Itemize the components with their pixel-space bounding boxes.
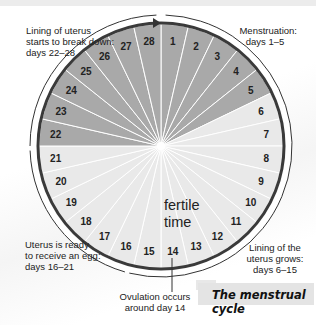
annotation-text: days 6–15	[240, 264, 310, 275]
annotation-text: Uterus is ready	[25, 239, 101, 250]
fertile-time-label: fertile time	[164, 197, 199, 231]
day-number: 2	[193, 41, 199, 52]
annotation-text: Menstruation:	[233, 25, 297, 36]
annotation-ovulation: Ovulation occurs around day 14	[110, 291, 200, 313]
diagram-title: The menstrual cycle	[212, 288, 316, 316]
annotation-text: around day 14	[110, 302, 200, 313]
day-number: 23	[55, 106, 67, 117]
day-number: 17	[99, 231, 111, 242]
day-number: 14	[167, 246, 179, 257]
day-number: 25	[80, 66, 92, 77]
annotation-text: Lining of uterus	[26, 25, 114, 36]
day-number: 20	[55, 176, 67, 187]
annotation-text: Lining of the	[240, 242, 310, 253]
day-number: 28	[144, 36, 156, 47]
annotation-breakdown: Lining of uterus starts to break down: d…	[26, 25, 114, 58]
day-number: 5	[248, 85, 254, 96]
annotation-text: to receive an egg:	[25, 250, 101, 261]
day-number: 12	[212, 231, 224, 242]
day-number: 4	[233, 66, 239, 77]
day-number: 13	[190, 241, 202, 252]
day-number: 15	[144, 246, 156, 257]
day-number: 16	[120, 241, 132, 252]
annotation-menstruation: Menstruation: days 1–5	[233, 25, 297, 47]
day-number: 3	[215, 51, 221, 62]
day-number: 8	[264, 153, 270, 164]
day-number: 6	[258, 106, 264, 117]
day-number: 10	[245, 197, 257, 208]
annotation-text: days 16–21	[25, 261, 101, 272]
time-text: time	[164, 214, 199, 231]
annotation-ready: Uterus is ready to receive an egg: days …	[25, 239, 101, 272]
annotation-grows: Lining of the uterus grows: days 6–15	[240, 242, 310, 275]
day-number: 19	[66, 197, 78, 208]
day-number: 21	[50, 153, 62, 164]
fertile-text: fertile	[164, 197, 199, 214]
day-number: 27	[120, 41, 132, 52]
annotation-text: days 1–5	[233, 36, 297, 47]
annotation-text: days 22–28	[26, 47, 114, 58]
day-number: 1	[170, 36, 176, 47]
day-number: 24	[66, 85, 78, 96]
annotation-text: starts to break down:	[26, 36, 114, 47]
day-number: 18	[80, 216, 92, 227]
annotation-text: uterus grows:	[240, 253, 310, 264]
day-number: 11	[231, 216, 242, 227]
day-number: 22	[50, 129, 62, 140]
day-number: 9	[258, 176, 264, 187]
day-number: 7	[264, 129, 270, 140]
annotation-text: Ovulation occurs	[110, 291, 200, 302]
